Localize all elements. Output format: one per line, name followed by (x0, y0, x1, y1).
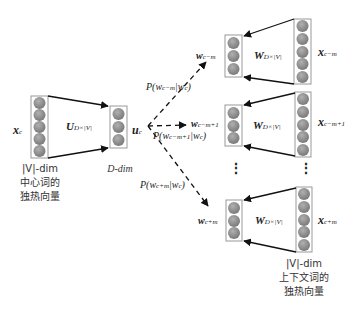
input-caption: |V|-dim 中心词的 独热向量 (8, 162, 72, 204)
context-caption: |V|-dim 上下文词的 独热向量 (268, 257, 340, 299)
output-word-cm: wc−m (196, 51, 216, 61)
prob-label-cpm: P(wc+m|wc) (140, 180, 185, 190)
dashed-arrow-cm (148, 62, 206, 126)
input-label: xc (13, 121, 22, 137)
output-word-cpm: wc+m (198, 216, 218, 226)
hidden-vector-column (110, 106, 127, 148)
context-label-cpm: xc+m (318, 214, 337, 226)
hidden-caption: D-dim (100, 162, 140, 176)
hidden-label: uc (132, 121, 142, 137)
context-label-cm1: xc−m+1 (318, 116, 345, 128)
w-matrix-label-cpm: WD×|V| (255, 215, 283, 226)
w-matrix-label-cm1: WD×|V| (253, 120, 281, 131)
projection-arrow-bottom (48, 148, 108, 158)
prob-label-cm: P(wc−m|wc) (146, 82, 191, 92)
dashed-arrow-cm1 (148, 125, 186, 126)
w-matrix-label-cm: WD×|V| (254, 50, 282, 61)
output-word-cm1: wc−m+1 (191, 119, 219, 129)
ellipsis-output: ⋮ (229, 162, 243, 176)
projection-arrow-top (48, 96, 108, 106)
prob-label-cm1: P(wc−m+1|wc) (153, 131, 206, 141)
ellipsis-context: ⋮ (299, 162, 313, 176)
input-vector-column (31, 96, 48, 158)
context-label-cm: xc−m (318, 46, 337, 58)
projection-matrix-label: UD×|V| (66, 121, 92, 132)
